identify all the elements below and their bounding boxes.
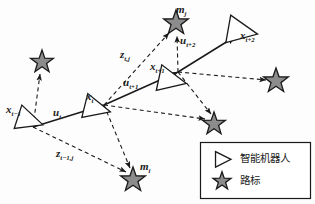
legend-box	[201, 143, 311, 199]
measurement-edge-t-plus-1-to-right	[178, 72, 266, 80]
legend-label-landmark: 路标	[240, 175, 260, 186]
measurement-edge-t-minus-1-to-bottom	[33, 127, 126, 172]
label-measurement-z-t-minus-1-j: zt−1,j	[56, 148, 73, 162]
diagram-canvas	[0, 0, 315, 204]
label-landmark-m-j: mj	[176, 4, 186, 18]
label-pose-t-minus-1: xt−1	[6, 104, 21, 118]
landmark-right	[264, 68, 289, 92]
label-pose-t: xt	[86, 91, 93, 105]
measurement-edge-t-plus-1-to-top	[177, 36, 178, 72]
measurement-edge-t-to-mid-right	[104, 105, 205, 119]
legend-graphics-layer	[201, 143, 311, 199]
landmark-mid-right	[203, 112, 226, 134]
label-control-u-t: ut	[53, 107, 61, 121]
landmark-upper-left	[31, 50, 54, 72]
slam-diagram-figure: xt−1 xt xt+1 xt+2 ut ut+1 ut+2 zt−1,j zt…	[0, 0, 315, 204]
label-control-u-t-plus-2: ut+2	[180, 35, 195, 49]
label-pose-t-plus-2: xt+2	[240, 30, 255, 44]
label-pose-t-plus-1: xt+1	[150, 61, 165, 75]
label-control-u-t-plus-1: ut+1	[123, 77, 138, 91]
legend-label-robot: 智能机器人	[240, 153, 290, 164]
label-measurement-z-t-j: zt,j	[120, 49, 130, 63]
label-landmark-m-i: mi	[140, 161, 150, 175]
measurement-edge-t-plus-1-to-mid-right	[178, 72, 211, 114]
measurement-edge-t-to-bottom	[104, 105, 130, 168]
